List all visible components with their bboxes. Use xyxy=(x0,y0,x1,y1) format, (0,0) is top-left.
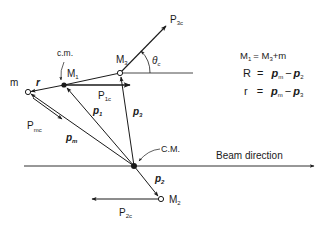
label-cm-small: c.m. xyxy=(57,48,73,58)
kinematics-diagram: Beam direction m c.m. M1 M3 C.M. M2 r P1… xyxy=(0,0,329,228)
point-M2 xyxy=(158,196,163,201)
label-p2: p2 xyxy=(154,173,165,185)
label-M2: M2 xyxy=(169,194,181,206)
equation-R: R=pm−p2 xyxy=(243,67,304,80)
label-P3c: P3c xyxy=(170,14,183,26)
equation-r: r=pm−p3 xyxy=(244,85,304,98)
theta-c-arc xyxy=(141,51,150,73)
pm-vector xyxy=(31,94,134,166)
point-M1 xyxy=(61,82,66,87)
point-CM xyxy=(131,163,137,169)
point-m xyxy=(25,89,30,94)
beam-direction-label: Beam direction xyxy=(216,150,283,161)
cm-pointer xyxy=(139,149,160,161)
label-CM: C.M. xyxy=(161,144,180,154)
point-M3 xyxy=(117,70,122,75)
equation-mass: M1= M3+m xyxy=(240,50,286,62)
label-theta-c: θc xyxy=(152,55,160,67)
cm-m1-pointer xyxy=(61,62,64,80)
label-p3: p3 xyxy=(132,106,143,118)
equations: M1= M3+m R=pm−p2 r=pm−p3 xyxy=(240,50,304,98)
label-r: r xyxy=(36,77,41,88)
label-pm: pm xyxy=(65,132,78,144)
label-p1: p1 xyxy=(92,105,103,117)
label-M1: M1 xyxy=(67,68,79,80)
pmc-vector xyxy=(33,98,62,119)
label-M3: M3 xyxy=(116,54,128,66)
label-P2c: P2c xyxy=(119,207,132,219)
label-Pmc: Pmc xyxy=(27,120,42,133)
label-P1c: P1c xyxy=(98,90,111,102)
label-m: m xyxy=(10,77,18,88)
